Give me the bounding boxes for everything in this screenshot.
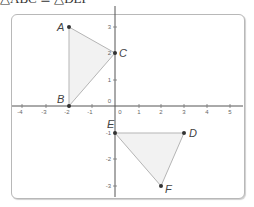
point-a bbox=[67, 25, 71, 29]
coordinate-plane: -4 -3 -2 -1 0 1 2 3 4 5 3 2 1 0 -1 -2 -3… bbox=[0, 0, 254, 207]
x-tick-label: 4 bbox=[205, 109, 209, 115]
point-d bbox=[182, 131, 186, 135]
y-tick-label: -2 bbox=[106, 156, 112, 162]
label-e: E bbox=[107, 118, 115, 130]
label-c: C bbox=[119, 47, 127, 59]
y-tick-label: -1 bbox=[106, 130, 112, 136]
y-tick-label: 0 bbox=[108, 98, 112, 104]
label-a: A bbox=[56, 21, 64, 33]
label-d: D bbox=[189, 127, 197, 139]
y-tick-label: -3 bbox=[106, 183, 112, 189]
x-tick-label: 0 bbox=[118, 109, 122, 115]
point-c bbox=[113, 51, 117, 55]
point-e bbox=[113, 131, 117, 135]
point-f bbox=[159, 184, 163, 188]
x-tick-label: 1 bbox=[137, 109, 141, 115]
x-tick-label: -1 bbox=[87, 109, 93, 115]
y-tick-label: 1 bbox=[108, 77, 112, 83]
point-b bbox=[67, 104, 71, 108]
y-tick-label: 3 bbox=[108, 24, 112, 30]
triangle-abc bbox=[69, 27, 115, 106]
x-tick-label: -3 bbox=[41, 109, 47, 115]
x-tick-label: 5 bbox=[228, 109, 232, 115]
x-tick-label: 3 bbox=[182, 109, 186, 115]
label-b: B bbox=[57, 93, 64, 105]
x-tick-label: 2 bbox=[159, 109, 163, 115]
x-tick-label: -4 bbox=[17, 109, 23, 115]
label-f: F bbox=[165, 183, 173, 195]
triangle-def bbox=[115, 133, 184, 186]
x-tick-label: -2 bbox=[64, 109, 70, 115]
